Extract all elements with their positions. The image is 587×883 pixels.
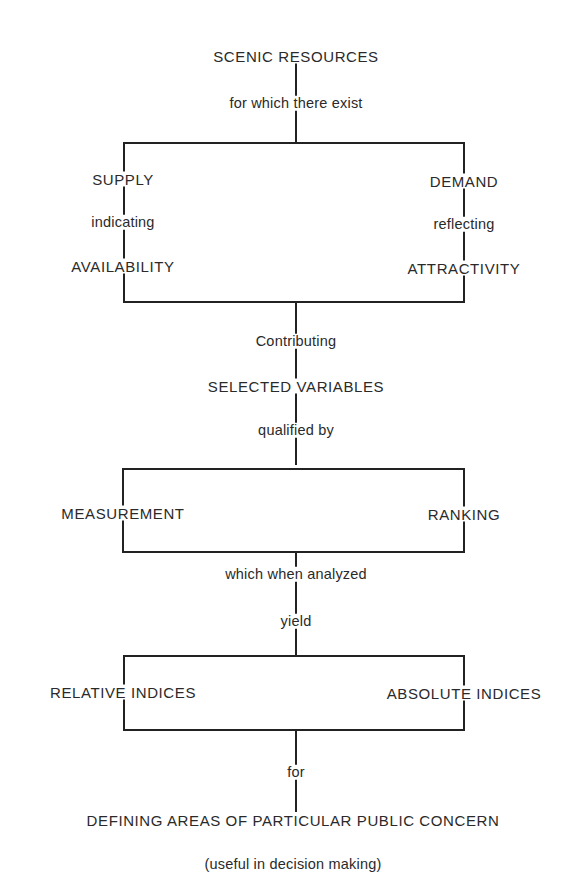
node-defining-areas: DEFINING AREAS OF PARTICULAR PUBLIC CONC… [86,813,501,828]
box3-bottom [123,729,465,731]
box3-top [123,655,465,657]
node-attractivity: ATTRACTIVITY [407,261,522,276]
connector-label: yield [280,614,313,629]
box2-bottom [122,551,465,553]
node-demand: DEMAND [429,174,500,189]
node-relative-indices: RELATIVE INDICES [49,685,197,700]
connector-label: for [286,765,306,780]
box1-top [123,142,465,144]
connector-label: reflecting [433,217,496,232]
node-measurement: MEASUREMENT [60,506,185,521]
box2-top [122,468,465,470]
connector-label: qualified by [257,423,335,438]
note-decision-making: (useful in decision making) [203,857,382,872]
node-availability: AVAILABILITY [70,259,175,274]
connector-label: Contributing [255,334,338,349]
node-ranking: RANKING [427,507,502,522]
node-selected-variables: SELECTED VARIABLES [207,379,385,394]
node-absolute-indices: ABSOLUTE INDICES [386,686,543,701]
connector-label: which when analyzed [224,567,368,582]
box1-bottom [123,301,465,303]
connector-label: for which there exist [228,96,363,111]
node-scenic-resources: SCENIC RESOURCES [212,49,379,64]
node-supply: SUPPLY [91,172,155,187]
connector-label: indicating [90,215,155,230]
